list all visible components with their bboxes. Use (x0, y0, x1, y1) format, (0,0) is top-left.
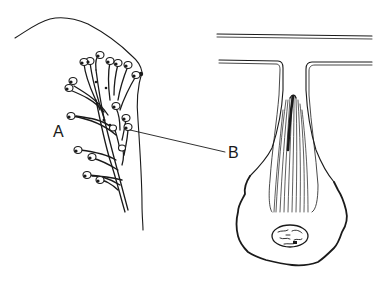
leader-line-b (130, 130, 225, 152)
duct-right-inner (309, 65, 372, 212)
gland-cell-body (237, 176, 347, 265)
surface-line (217, 34, 372, 36)
surface-line-inner (217, 37, 372, 39)
diagram-figure: A B (0, 0, 388, 282)
gland-heads (65, 52, 140, 184)
duct-left-inner (219, 63, 280, 212)
nucleus-dark-spot (293, 241, 297, 244)
label-a: A (53, 124, 64, 140)
diagram-svg (0, 0, 388, 282)
gland-cluster (70, 54, 136, 212)
tissue-outline (15, 18, 143, 230)
label-b: B (228, 145, 239, 161)
